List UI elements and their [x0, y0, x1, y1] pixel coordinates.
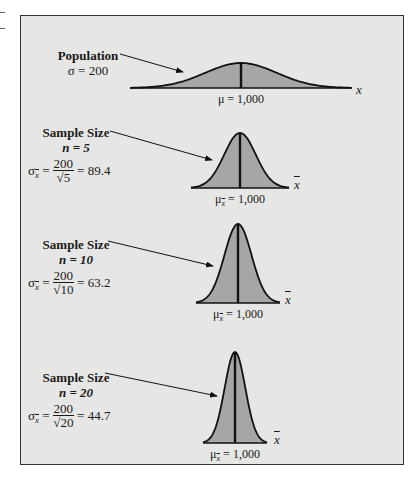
denominator: √10 — [53, 283, 73, 296]
sample-size-title: Sample Size — [38, 125, 114, 140]
sample-mean-axis-label: x — [274, 432, 280, 448]
pointer-arrow — [110, 131, 212, 160]
fraction: 200√20 — [53, 402, 75, 429]
numerator: 200 — [53, 157, 75, 171]
mean-value: = 1,000 — [223, 447, 260, 461]
equals-sign: = — [39, 275, 50, 291]
pointer-arrow — [120, 54, 183, 72]
denominator: √5 — [57, 171, 71, 184]
sigma-subscript: x — [35, 415, 39, 425]
sample-mean-axis-label: x — [294, 177, 300, 193]
standard-error-result: = 89.4 — [77, 163, 110, 179]
standard-error-formula: σx = 200√20 = 44.7 — [28, 402, 110, 429]
fraction: 200√5 — [53, 157, 75, 184]
mu-subscript: x — [222, 199, 226, 208]
denominator: √20 — [53, 416, 73, 429]
sample-mean-label: μx = 1,000 — [213, 307, 263, 322]
population-label: Population σ = 200 — [48, 48, 128, 78]
sigma-subscript: x — [35, 282, 39, 292]
sigma-symbol: σ — [28, 275, 35, 291]
equals-sign: = — [39, 163, 50, 179]
sample-size-title: Sample Size — [38, 370, 114, 385]
standard-error-result: = 63.2 — [77, 275, 110, 291]
sigma-subscript: x — [35, 170, 39, 180]
equals-sign: = — [39, 408, 50, 424]
population-sigma: σ = 200 — [48, 63, 128, 78]
sample-size-n: n = 10 — [38, 252, 114, 267]
numerator: 200 — [53, 402, 75, 416]
sample-mean-axis-label: x — [285, 292, 291, 308]
mean-value: = 1,000 — [226, 307, 263, 321]
standard-error-result: = 44.7 — [77, 408, 110, 424]
sample-size-label-n20: Sample Size n = 20 — [38, 370, 114, 400]
sample-size-label-n5: Sample Size n = 5 — [38, 125, 114, 155]
sample-mean-label: μx = 1,000 — [210, 447, 260, 462]
pointer-arrow — [105, 373, 217, 396]
pointer-arrow — [108, 241, 213, 266]
mu-subscript: x — [217, 454, 221, 463]
sigma-symbol: σ — [28, 408, 35, 424]
fraction: 200√10 — [53, 269, 75, 296]
sample-mean-label: μx = 1,000 — [215, 192, 265, 207]
sigma-symbol: σ — [28, 163, 35, 179]
population-axis-label: x — [356, 82, 362, 98]
sample-size-label-n10: Sample Size n = 10 — [38, 237, 114, 267]
population-mean-label: μ = 1,000 — [218, 92, 264, 107]
population-title: Population — [48, 48, 128, 63]
sample-size-n: n = 20 — [38, 385, 114, 400]
numerator: 200 — [53, 269, 75, 283]
sample-size-title: Sample Size — [38, 237, 114, 252]
mu-subscript: x — [220, 314, 224, 323]
mean-value: = 1,000 — [228, 192, 265, 206]
sample-size-n: n = 5 — [38, 140, 114, 155]
standard-error-formula: σx = 200√5 = 89.4 — [28, 157, 110, 184]
standard-error-formula: σx = 200√10 = 63.2 — [28, 269, 110, 296]
